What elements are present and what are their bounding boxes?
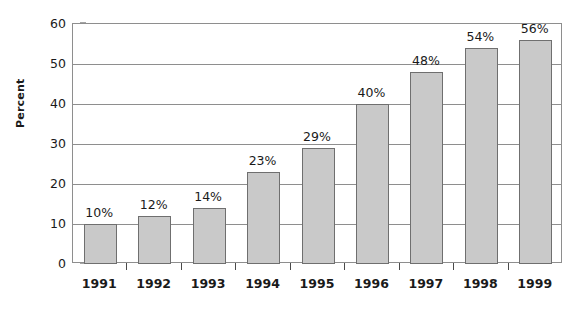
x-axis-tick-label-1996: 1996 bbox=[354, 276, 389, 291]
x-axis-tick-label-1995: 1995 bbox=[300, 276, 335, 291]
bar-1999 bbox=[519, 40, 552, 264]
x-axis-tick-label-1994: 1994 bbox=[245, 276, 280, 291]
x-axis-tick-mark bbox=[181, 263, 182, 270]
y-axis-tick-label: 60 bbox=[20, 16, 66, 31]
x-axis-tick-mark bbox=[453, 263, 454, 270]
bar-value-label-1996: 40% bbox=[358, 85, 386, 100]
y-axis-tick-label: 40 bbox=[20, 96, 66, 111]
bar-value-label-1997: 48% bbox=[412, 53, 440, 68]
x-axis-tick-label-1993: 1993 bbox=[191, 276, 226, 291]
y-axis-tick-label: 0 bbox=[20, 256, 66, 271]
y-axis-tick-label: 50 bbox=[20, 56, 66, 71]
bar-value-label-1998: 54% bbox=[466, 29, 494, 44]
bar-1997 bbox=[410, 72, 443, 264]
x-axis-tick-mark bbox=[126, 263, 127, 270]
y-axis-tick-label: 20 bbox=[20, 176, 66, 191]
x-axis-tick-label-1998: 1998 bbox=[463, 276, 498, 291]
x-axis-tick-label-1997: 1997 bbox=[408, 276, 443, 291]
bar-1998 bbox=[465, 48, 498, 264]
bar-1993 bbox=[193, 208, 226, 264]
y-axis-tick-label: 30 bbox=[20, 136, 66, 151]
bar-value-label-1999: 56% bbox=[521, 21, 549, 36]
x-axis-tick-mark bbox=[235, 263, 236, 270]
x-axis-tick-label-1992: 1992 bbox=[136, 276, 171, 291]
x-axis-tick-label-1999: 1999 bbox=[517, 276, 552, 291]
x-axis-tick-mark bbox=[399, 263, 400, 270]
bar-1996 bbox=[356, 104, 389, 264]
bar-value-label-1992: 12% bbox=[140, 197, 168, 212]
x-axis-tick-label-1991: 1991 bbox=[82, 276, 117, 291]
bar-1994 bbox=[247, 172, 280, 264]
x-axis-tick-mark bbox=[290, 263, 291, 270]
x-axis-tick-mark bbox=[344, 263, 345, 270]
bar-value-label-1995: 29% bbox=[303, 129, 331, 144]
x-axis-tick-mark bbox=[508, 263, 509, 270]
bar-value-label-1993: 14% bbox=[194, 189, 222, 204]
y-axis-tick-label: 10 bbox=[20, 216, 66, 231]
y-axis-tick-labels: 0102030405060 bbox=[14, 0, 66, 319]
bar-1995 bbox=[302, 148, 335, 264]
bar-1991 bbox=[84, 224, 117, 264]
bar-value-label-1991: 10% bbox=[85, 205, 113, 220]
bar-value-label-1994: 23% bbox=[249, 153, 277, 168]
bar-1992 bbox=[138, 216, 171, 264]
bar-chart: Percent 0102030405060 199119921993199419… bbox=[0, 0, 582, 319]
